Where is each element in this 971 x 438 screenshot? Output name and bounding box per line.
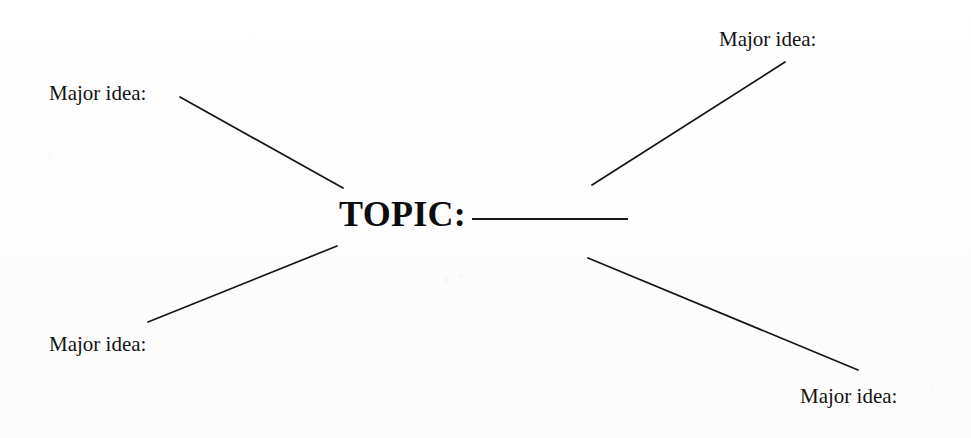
major-idea-label-top-left: Major idea: [49,83,146,104]
mind-map-worksheet: TOPIC: Major idea: Major idea: Major ide… [0,0,971,438]
connector-line-top-left [180,97,343,188]
major-idea-label-top-right: Major idea: [719,29,816,50]
major-idea-label-bottom-right: Major idea: [800,386,897,407]
connector-line-top-right [592,62,785,185]
connector-line-bottom-right [588,258,858,370]
topic-label: TOPIC: [339,196,466,232]
connector-line-bottom-left [148,246,337,322]
topic-fill-in-blank[interactable] [472,218,628,220]
topic-node: TOPIC: [339,196,628,232]
major-idea-label-bottom-left: Major idea: [49,334,146,355]
